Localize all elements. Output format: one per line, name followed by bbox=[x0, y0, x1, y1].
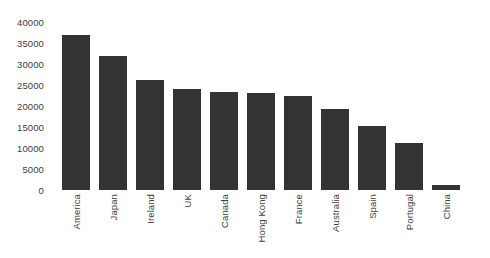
y-axis-tick-label: 0 bbox=[39, 185, 44, 196]
x-axis-tick-label-text: UK bbox=[182, 194, 193, 207]
bar[interactable] bbox=[99, 56, 127, 190]
x-axis-tick-label-text: Ireland bbox=[145, 194, 156, 224]
bar[interactable] bbox=[210, 92, 238, 190]
bar[interactable] bbox=[395, 143, 423, 190]
y-axis-tick-label: 5000 bbox=[22, 164, 44, 175]
x-axis-tick-label-text: Portugal bbox=[404, 194, 415, 230]
bar[interactable] bbox=[62, 35, 90, 190]
x-axis-tick-label-text: Spain bbox=[367, 194, 378, 219]
y-axis-tick-label: 15000 bbox=[17, 122, 44, 133]
x-axis-tick-label-text: Australia bbox=[330, 194, 341, 232]
y-axis: 0500010000150002000025000300003500040000 bbox=[0, 0, 52, 258]
x-axis-tick-label: Portugal bbox=[395, 190, 423, 256]
x-axis-tick-label-text: Japan bbox=[108, 194, 119, 220]
x-axis-tick-label: Hong Kong bbox=[247, 190, 275, 256]
bar[interactable] bbox=[284, 96, 312, 190]
x-axis-tick-label: Canada bbox=[210, 190, 238, 256]
x-axis-tick-label-text: France bbox=[293, 194, 304, 224]
bar[interactable] bbox=[136, 80, 164, 190]
bar[interactable] bbox=[173, 89, 201, 190]
x-axis-tick-label: China bbox=[432, 190, 460, 256]
y-axis-tick-label: 10000 bbox=[17, 143, 44, 154]
bar[interactable] bbox=[321, 109, 349, 190]
x-axis-tick-label-text: Hong Kong bbox=[256, 194, 267, 242]
x-axis-tick-label-text: America bbox=[71, 194, 82, 230]
x-axis-tick-label: Spain bbox=[358, 190, 386, 256]
bar-chart: 0500010000150002000025000300003500040000… bbox=[0, 0, 490, 258]
x-axis-tick-label-text: China bbox=[441, 194, 452, 219]
y-axis-tick-label: 30000 bbox=[17, 59, 44, 70]
x-axis-tick-label-text: Canada bbox=[219, 194, 230, 228]
x-axis-tick-label: Australia bbox=[321, 190, 349, 256]
x-axis-tick-label: Japan bbox=[99, 190, 127, 256]
plot-area: AmericaJapanIrelandUKCanadaHong KongFran… bbox=[58, 0, 490, 258]
x-axis-tick-label: Ireland bbox=[136, 190, 164, 256]
x-axis-tick-label: UK bbox=[173, 190, 201, 256]
y-axis-tick-label: 20000 bbox=[17, 101, 44, 112]
bar[interactable] bbox=[358, 126, 386, 190]
y-axis-tick-label: 25000 bbox=[17, 80, 44, 91]
y-axis-tick-label: 40000 bbox=[17, 17, 44, 28]
x-axis-tick-label: France bbox=[284, 190, 312, 256]
x-axis-tick-label: America bbox=[62, 190, 90, 256]
bar[interactable] bbox=[247, 93, 275, 190]
y-axis-tick-label: 35000 bbox=[17, 38, 44, 49]
